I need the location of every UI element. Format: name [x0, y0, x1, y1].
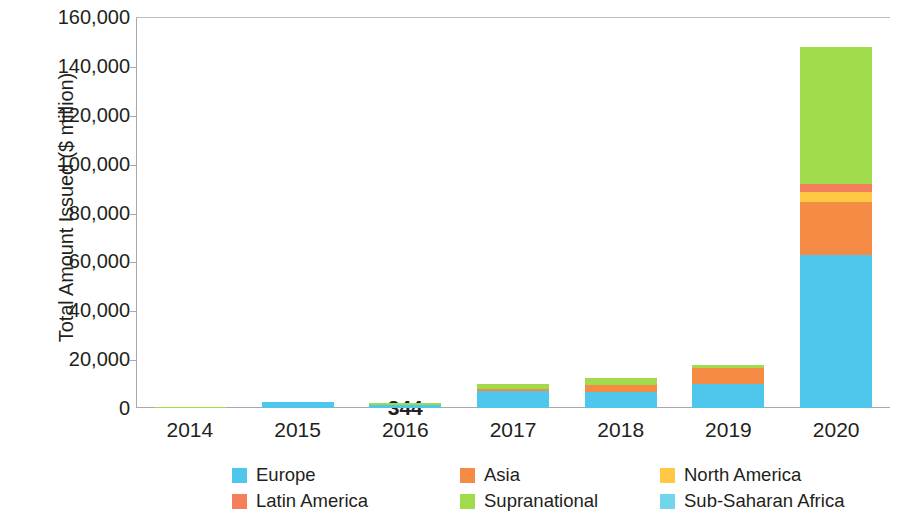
y-axis-tick-label: 120,000 [20, 103, 130, 126]
bar-segment-2020-asia[interactable] [800, 202, 872, 255]
legend-swatch-icon [232, 468, 247, 483]
bar-segment-2019-europe[interactable] [692, 384, 764, 408]
bar-group-2020[interactable] [800, 17, 872, 408]
y-axis-tick-labels: 020,00040,00060,00080,000100,000120,0001… [20, 0, 130, 430]
x-axis-tick-label-2019: 2019 [668, 418, 788, 442]
legend-item-sub-saharan-africa[interactable]: Sub-Saharan Africa [660, 492, 844, 511]
x-axis-tick-label-2014: 2014 [130, 418, 250, 442]
x-axis-tick-label-2016: 2016 [345, 418, 465, 442]
bar-segment-2017-supranational[interactable] [477, 384, 549, 389]
bar-segment-2017-asia[interactable] [477, 389, 549, 391]
bar-segment-2018-asia[interactable] [585, 385, 657, 392]
y-axis-tick-label: 100,000 [20, 152, 130, 175]
bar-segment-2015-europe[interactable] [262, 402, 334, 408]
x-axis-tick-labels: 2014201520162017201820192020 [136, 418, 890, 450]
legend-label: Europe [256, 466, 316, 485]
bar-segment-2014-supranational[interactable] [154, 407, 226, 409]
bar-segment-2016-europe[interactable] [369, 405, 441, 408]
legend-label: Sub-Saharan Africa [684, 492, 844, 511]
bar-segment-2017-europe[interactable] [477, 391, 549, 408]
bar-segment-2019-asia[interactable] [692, 368, 764, 384]
bar-group-2017[interactable] [477, 17, 549, 408]
y-axis-tick-label: 0 [20, 397, 130, 420]
legend-swatch-icon [232, 494, 247, 509]
legend-label: Supranational [484, 492, 598, 511]
y-axis-tick-label: 80,000 [20, 201, 130, 224]
bar-group-2015[interactable] [262, 17, 334, 408]
bar-segment-2018-europe[interactable] [585, 392, 657, 408]
bar-segment-2018-supranational[interactable] [585, 378, 657, 386]
y-axis-tick-label: 160,000 [20, 6, 130, 29]
legend-swatch-icon [460, 468, 475, 483]
bar-segment-2020-north-america[interactable] [800, 192, 872, 202]
bar-segment-2020-europe[interactable] [800, 255, 872, 408]
bar-group-2018[interactable] [585, 17, 657, 408]
bar-segment-2020-supranational[interactable] [800, 47, 872, 184]
bar-group-2014[interactable] [154, 17, 226, 408]
x-axis-tick-label-2020: 2020 [776, 418, 896, 442]
bar-segment-2019-supranational[interactable] [692, 365, 764, 368]
legend-label: North America [684, 466, 801, 485]
legend-item-europe[interactable]: Europe [232, 466, 316, 485]
bar-segment-2016-supranational[interactable] [369, 403, 441, 405]
bars-layer: 3449682,6716,50521,539 [136, 17, 890, 408]
legend-label: Latin America [256, 492, 368, 511]
y-axis-tick-label: 60,000 [20, 250, 130, 273]
stacked-bar-chart: Total Amount Issued ($ million) 020,0004… [0, 0, 918, 517]
legend-item-latin-america[interactable]: Latin America [232, 492, 368, 511]
y-axis-tick-label: 140,000 [20, 54, 130, 77]
bar-segment-2020-latin-america[interactable] [800, 184, 872, 192]
legend-item-north-america[interactable]: North America [660, 466, 801, 485]
y-axis-tick-label: 40,000 [20, 299, 130, 322]
y-axis-tick-label: 20,000 [20, 348, 130, 371]
legend-swatch-icon [660, 494, 675, 509]
legend-item-asia[interactable]: Asia [460, 466, 520, 485]
x-axis-tick-label-2015: 2015 [238, 418, 358, 442]
x-axis-tick-label-2018: 2018 [561, 418, 681, 442]
bar-group-2019[interactable] [692, 17, 764, 408]
legend-swatch-icon [460, 494, 475, 509]
x-axis-tick-label-2017: 2017 [453, 418, 573, 442]
legend-item-supranational[interactable]: Supranational [460, 492, 598, 511]
legend-label: Asia [484, 466, 520, 485]
legend-swatch-icon [660, 468, 675, 483]
bar-group-2016[interactable] [369, 17, 441, 408]
chart-legend: EuropeAsiaNorth AmericaLatin AmericaSupr… [232, 466, 892, 514]
